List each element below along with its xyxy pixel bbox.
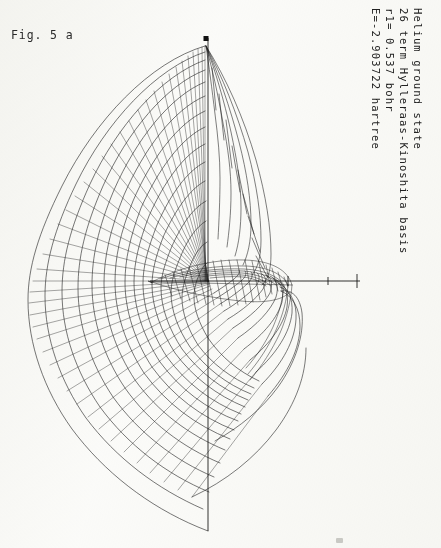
- nuclear-cusp-region: [148, 260, 292, 380]
- surface-mesh: [28, 46, 306, 531]
- apex-marker: [204, 36, 209, 41]
- plot-axes: [150, 36, 360, 531]
- figure-root: Fig. 5 a Helium ground state 26 term Hyl…: [0, 0, 441, 548]
- lower-lobe-surface: [192, 270, 306, 497]
- arc-profile-curves: [28, 46, 259, 531]
- wireframe-surface-plot: [0, 0, 441, 548]
- figure-caption: Fig. 5 a: [11, 28, 74, 42]
- upper-right-flank: [206, 46, 271, 285]
- scan-artifact: [336, 538, 343, 543]
